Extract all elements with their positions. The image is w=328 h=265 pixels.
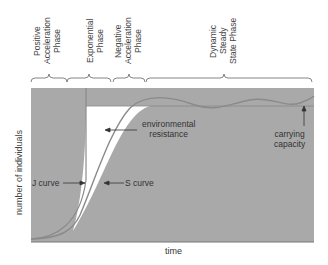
brace-steady bbox=[146, 74, 312, 82]
brace-negative bbox=[113, 74, 145, 82]
y-axis-label: number of individuals bbox=[14, 112, 24, 232]
phase-dynamic-steady-state: Dynamic Steady State Phase bbox=[208, 8, 238, 74]
plot-area bbox=[31, 88, 314, 242]
j-curve-label: J curve bbox=[32, 178, 59, 188]
phase-braces bbox=[31, 74, 312, 82]
environmental-resistance-label: environmental resistance bbox=[142, 119, 195, 139]
phase-exponential: Exponential Phase bbox=[85, 8, 105, 74]
phase-positive-acceleration: Positive Acceleration Phase bbox=[32, 8, 62, 74]
brace-positive bbox=[31, 74, 67, 82]
brace-exponential bbox=[67, 74, 111, 82]
s-curve-label: S curve bbox=[125, 178, 154, 188]
phase-negative-acceleration: Negative Acceleration Phase bbox=[113, 8, 143, 74]
x-axis-label: time bbox=[165, 246, 182, 256]
carrying-capacity-label: carrying capacity bbox=[274, 129, 305, 149]
